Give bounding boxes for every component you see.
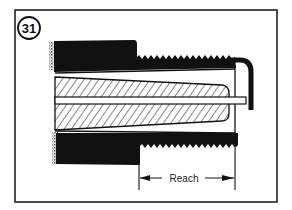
reach-label: Reach — [170, 173, 199, 184]
reach-dimension: Reach — [139, 148, 235, 190]
figure-number: 31 — [22, 21, 36, 36]
shell-threads-top — [136, 55, 236, 70]
shell-threads-bottom — [139, 133, 238, 148]
center-electrode — [55, 97, 246, 104]
reach-arrowhead-right — [222, 175, 234, 181]
bore-line-bottom — [55, 131, 235, 133]
shell-hex-top — [54, 40, 137, 72]
reach-arrowhead-left — [140, 175, 150, 181]
shell-hex-bottom — [56, 133, 140, 165]
figure-number-badge: 31 — [18, 17, 40, 39]
spark-plug-reach-diagram: 31 Reach — [0, 0, 292, 210]
